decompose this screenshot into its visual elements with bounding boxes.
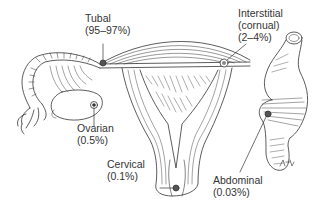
label-abdominal-value: (0.03%) bbox=[213, 186, 263, 198]
label-cervical: Cervical (0.1%) bbox=[107, 158, 145, 182]
cervical-site-dot bbox=[173, 185, 179, 191]
label-ovarian: Ovarian (0.5%) bbox=[77, 122, 114, 146]
label-tubal-name: Tubal bbox=[85, 12, 131, 24]
label-abdominal: Abdominal (0.03%) bbox=[213, 174, 263, 198]
tubal-site-dot bbox=[100, 60, 106, 66]
label-interstitial: Interstitial (cornual) (2–4%) bbox=[238, 7, 283, 43]
label-cervical-value: (0.1%) bbox=[107, 170, 145, 182]
label-ovarian-name: Ovarian bbox=[77, 122, 114, 134]
label-tubal-value: (95–97%) bbox=[85, 24, 131, 36]
label-interstitial-value: (2–4%) bbox=[238, 31, 283, 43]
label-ovarian-value: (0.5%) bbox=[77, 134, 114, 146]
label-interstitial-alt: (cornual) bbox=[238, 19, 283, 31]
label-abdominal-name: Abdominal bbox=[213, 174, 263, 186]
abdominal-leader bbox=[240, 117, 266, 172]
label-tubal: Tubal (95–97%) bbox=[85, 12, 131, 36]
abdominal-site-dot bbox=[265, 111, 271, 117]
label-cervical-name: Cervical bbox=[107, 158, 145, 170]
bowel-loop bbox=[259, 32, 307, 170]
interstitial-leader bbox=[227, 44, 246, 60]
label-interstitial-name: Interstitial bbox=[238, 7, 283, 19]
